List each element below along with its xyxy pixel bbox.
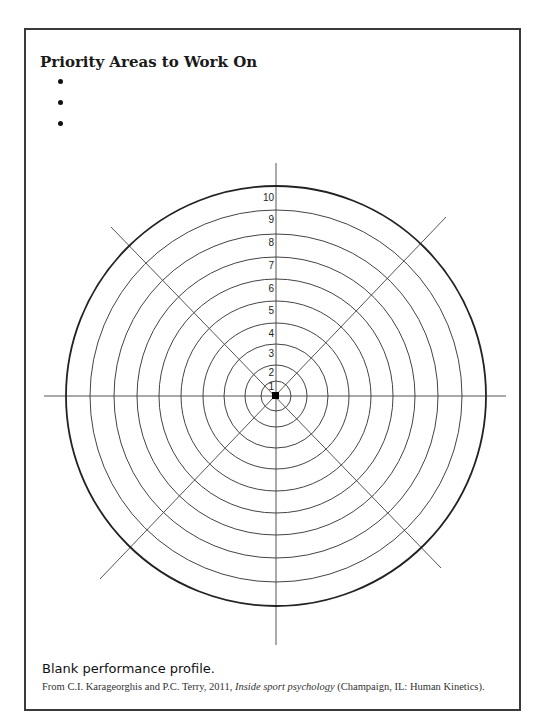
source-suffix: (Champaign, IL: Human Kinetics). [335,681,485,692]
source-book-title: Inside sport psychology [235,681,335,692]
ring-label-3: 3 [268,348,274,359]
ring-label-6: 6 [268,283,274,294]
center-point [272,392,279,399]
ring-label-7: 7 [268,260,274,271]
spokes [44,163,506,645]
ring-label-2: 2 [268,367,274,378]
ring-label-1: 1 [268,381,274,392]
ring-label-9: 9 [268,214,274,225]
figure-caption: Blank performance profile. [42,661,215,676]
ring-labels: 1 2 3 4 5 6 7 8 9 10 [263,192,275,392]
source-prefix: From C.I. Karageorghis and P.C. Terry, 2… [42,681,235,692]
figure-source: From C.I. Karageorghis and P.C. Terry, 2… [42,680,512,693]
ring-label-8: 8 [268,237,274,248]
performance-profile-chart: 1 2 3 4 5 6 7 8 9 10 [0,0,545,726]
ring-label-5: 5 [268,305,274,316]
ring-label-4: 4 [268,328,274,339]
ring-label-10: 10 [263,192,275,203]
